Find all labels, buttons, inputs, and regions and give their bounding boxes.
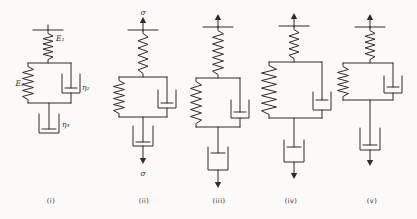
caption-ii: (ii) — [139, 197, 150, 205]
caption-iii: (iii) — [213, 197, 226, 205]
figure-svg: E₁ E₂ η₂ η₃ (i) σ σ (ii) (iii) — [0, 0, 417, 219]
parallel-spring-icon — [191, 78, 202, 127]
model-iv: (iv) — [262, 13, 332, 205]
caption-i: (i) — [47, 197, 55, 205]
series-spring-icon — [138, 30, 148, 77]
series-spring-icon — [289, 26, 299, 62]
series-dashpot-icon — [208, 127, 228, 170]
viscoelastic-models-figure: E₁ E₂ η₂ η₃ (i) σ σ (ii) (iii) — [0, 0, 417, 219]
stress-arrow-up-icon — [291, 13, 297, 27]
parallel-dashpot-eta2-icon — [62, 63, 80, 103]
series-dashpot-icon — [133, 117, 153, 146]
stress-arrow-down-icon — [367, 150, 373, 166]
parallel-dashpot-icon — [158, 77, 176, 117]
label-eta3: η₃ — [62, 120, 70, 129]
stress-arrow-up-icon — [215, 14, 221, 28]
sigma-bottom-label: σ — [140, 169, 146, 178]
series-spring-icon — [365, 27, 375, 63]
series-dashpot-icon — [360, 100, 380, 150]
stress-arrow-down-icon — [215, 170, 221, 188]
series-dashpot-eta3-icon — [39, 103, 59, 133]
parallel-dashpot-icon — [384, 63, 402, 100]
label-E2: E₂ — [15, 79, 24, 88]
sigma-top-label: σ — [140, 8, 146, 17]
parallel-spring-E2-icon — [23, 63, 34, 103]
label-E1: E₁ — [55, 34, 64, 43]
model-ii: σ σ (ii) — [114, 8, 177, 205]
stress-arrow-down-icon — [140, 146, 146, 164]
series-spring-icon — [213, 27, 224, 78]
label-eta2: η₂ — [82, 83, 90, 92]
parallel-dashpot-icon — [313, 62, 331, 118]
model-iii: (iii) — [191, 14, 250, 205]
model-i: E₁ E₂ η₂ η₃ (i) — [15, 25, 90, 205]
parallel-spring-icon — [114, 77, 125, 117]
stress-arrow-down-icon — [291, 162, 297, 179]
model-v: (v) — [338, 14, 403, 205]
parallel-spring-icon — [262, 62, 277, 118]
caption-iv: (iv) — [285, 197, 298, 205]
series-dashpot-icon — [284, 118, 304, 162]
parallel-dashpot-icon — [231, 78, 249, 127]
parallel-spring-icon — [338, 63, 349, 100]
series-spring-E1-icon — [43, 30, 53, 63]
stress-arrow-up-icon — [140, 17, 146, 31]
stress-arrow-up-icon — [367, 14, 373, 28]
caption-v: (v) — [367, 197, 377, 205]
